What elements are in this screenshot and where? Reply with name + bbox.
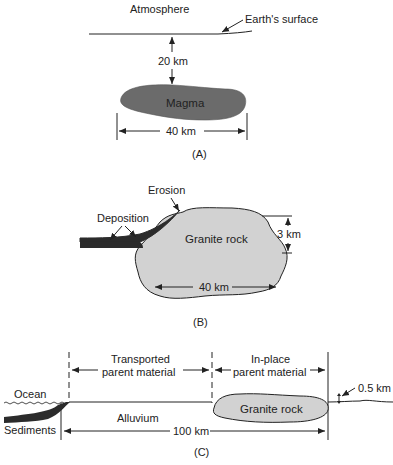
panel-b-caption: (B) [193,316,208,328]
ocean-label: Ocean [14,388,46,400]
panel-c: Transported parent material In-place par… [4,352,393,458]
width-label: 40 km [199,281,229,293]
erosion-arrow [171,198,179,211]
panel-c-caption: (C) [194,446,209,458]
deposition-label: Deposition [97,212,149,224]
earth-surface-line [89,31,252,34]
relief-label: 0.5 km [358,382,391,394]
height-label: 3 km [277,228,301,240]
magma-label: Magma [166,97,205,109]
panel-a: Atmosphere Earth's surface 20 km Magma 4… [89,3,318,160]
erosion-label: Erosion [148,184,185,196]
earth-surface-pointer-arrow [222,20,243,32]
granite-rock-label: Granite rock [185,233,248,245]
width-label: 40 km [166,125,196,137]
transported-label-1: Transported [111,353,170,365]
distance-label: 100 km [173,425,209,437]
transported-label-2: parent material [102,366,175,378]
deposition-base [80,242,143,248]
inplace-label-1: In-place [251,353,290,365]
inplace-label-2: parent material [233,366,306,378]
granite-rock-label: Granite rock [240,403,303,415]
alluvium-label: Alluvium [117,412,159,424]
panel-b: Erosion Deposition Granite rock 3 km 40 … [80,184,301,328]
ocean-surface-waves [4,402,64,404]
sediments-layer [4,402,70,423]
earth-surface-label: Earth's surface [245,13,318,25]
sediments-label: Sediments [4,424,56,436]
depth-label: 20 km [158,55,188,67]
panel-a-caption: (A) [192,148,207,160]
atmosphere-label: Atmosphere [130,3,189,15]
relief-pointer-arrow [342,388,355,396]
weathering-diagram: Atmosphere Earth's surface 20 km Magma 4… [0,0,393,465]
